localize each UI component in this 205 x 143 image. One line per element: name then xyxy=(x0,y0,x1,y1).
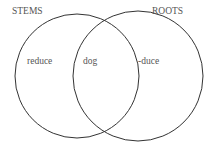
roots-only-item: -duce xyxy=(138,56,159,66)
intersection-item: dog xyxy=(83,56,97,66)
stems-label: STEMS xyxy=(12,6,43,16)
stems-circle xyxy=(15,14,139,138)
venn-diagram xyxy=(0,0,205,143)
roots-label: ROOTS xyxy=(152,6,183,16)
roots-circle xyxy=(73,11,203,141)
stems-only-item: reduce xyxy=(27,56,52,66)
